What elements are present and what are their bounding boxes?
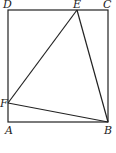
geometry-figure: D E C F A B xyxy=(0,0,116,153)
label-c: C xyxy=(103,0,112,11)
label-b: B xyxy=(103,124,112,137)
segment-eb xyxy=(77,10,108,122)
segment-ef xyxy=(8,10,77,103)
label-a: A xyxy=(4,124,13,137)
label-f: F xyxy=(0,97,8,110)
label-e: E xyxy=(72,0,81,11)
segment-fb xyxy=(8,103,108,122)
label-d: D xyxy=(2,0,12,11)
